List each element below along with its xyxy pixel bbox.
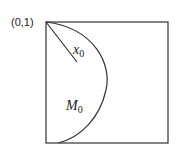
radius-label: x0 bbox=[72, 42, 84, 59]
corner-label: (0,1) bbox=[11, 16, 34, 28]
diagram-canvas: (0,1) x0 M0 bbox=[0, 0, 180, 155]
region-label: M0 bbox=[65, 98, 83, 115]
circular-arc bbox=[46, 22, 107, 143]
radius-label-sub: 0 bbox=[79, 48, 84, 59]
region-label-sub: 0 bbox=[78, 104, 83, 115]
